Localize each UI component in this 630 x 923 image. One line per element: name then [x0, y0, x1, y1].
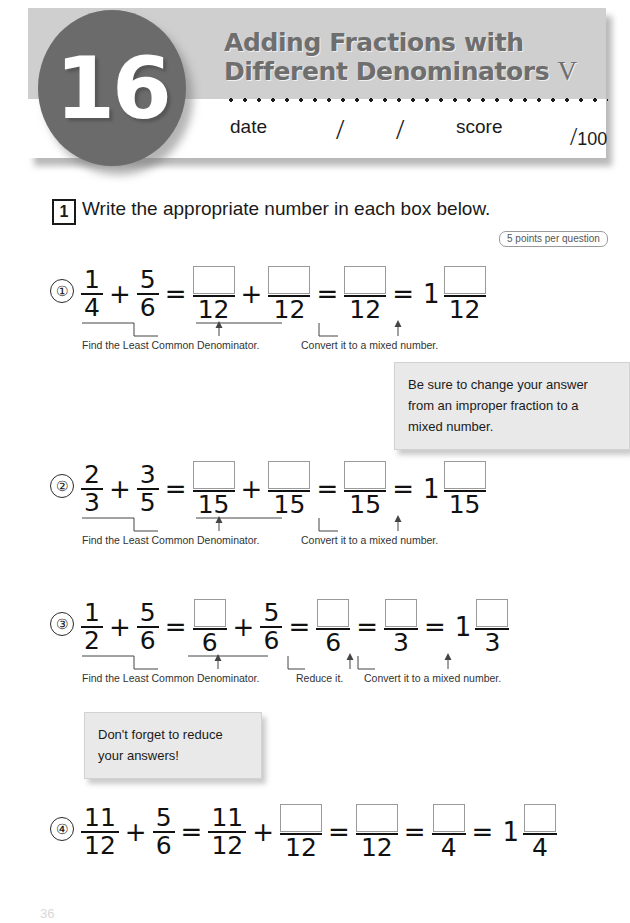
callout-improper-fraction: Be sure to change your answer from an im…: [394, 362, 630, 450]
fraction-with-answer-box: 12: [444, 266, 486, 323]
problem-number-4: ④: [50, 817, 74, 841]
denominator: 12: [195, 297, 233, 323]
fraction-with-answer-box: 3: [384, 599, 418, 656]
denominator: 15: [446, 492, 484, 518]
answer-box[interactable]: [193, 266, 235, 294]
points-per-question-badge: 5 points per question: [499, 231, 608, 247]
date-slash-1: /: [336, 112, 344, 146]
fraction-with-answer-box: 6: [193, 599, 227, 656]
problem-number-3: ③: [50, 612, 74, 636]
numerator: 1: [81, 267, 103, 293]
answer-box[interactable]: [317, 599, 349, 627]
denominator: 6: [199, 630, 221, 656]
operator: =: [165, 614, 187, 640]
callout-2-line-2: your answers!: [98, 745, 248, 766]
numerator: 11: [81, 805, 119, 831]
operator: +: [252, 819, 274, 845]
answer-box[interactable]: [268, 266, 310, 294]
title-line-2-text: Different Denominators: [224, 57, 549, 86]
whole-number: 1: [502, 817, 519, 847]
instruction-text: Write the appropriate number in each box…: [82, 198, 490, 220]
callout-1-line-2: from an improper fraction to a: [408, 395, 616, 416]
problem-expression-4: 1112+56=1112+12=12=4=14: [80, 801, 558, 863]
operator: =: [424, 614, 446, 640]
answer-box[interactable]: [344, 461, 386, 489]
fraction: 1112: [208, 805, 246, 859]
title-line-1: Adding Fractions with: [224, 28, 604, 57]
answer-box[interactable]: [356, 804, 398, 832]
denominator: 2: [81, 628, 103, 654]
fraction-with-answer-box: 4: [523, 804, 557, 861]
operator: =: [165, 281, 187, 307]
operator: =: [181, 819, 203, 845]
denominator: 6: [137, 628, 159, 654]
fraction-with-answer-box: 12: [280, 804, 322, 861]
denominator: 4: [81, 295, 103, 321]
fraction-with-answer-box: 4: [432, 804, 466, 861]
answer-box[interactable]: [444, 461, 486, 489]
fraction: 35: [137, 462, 159, 516]
operator: +: [241, 281, 263, 307]
whole-number: 1: [455, 612, 472, 642]
answer-box[interactable]: [344, 266, 386, 294]
answer-box[interactable]: [524, 804, 556, 832]
page-number: 36: [40, 906, 54, 921]
answer-box[interactable]: [444, 266, 486, 294]
numerator: 3: [137, 462, 159, 488]
fraction-with-answer-box: 12: [193, 266, 235, 323]
answer-box[interactable]: [280, 804, 322, 832]
denominator: 12: [346, 297, 384, 323]
denominator: 12: [208, 833, 246, 859]
date-slash-2: /: [396, 112, 404, 146]
numerator: 5: [153, 805, 175, 831]
fraction-with-answer-box: 12: [356, 804, 398, 861]
problem-expression-2: 23+35=15+15=15=115: [80, 458, 487, 520]
problem-expression-3: 12+56=6+56=6=3=13: [80, 596, 510, 658]
denominator: 6: [322, 630, 344, 656]
fraction-with-answer-box: 15: [444, 461, 486, 518]
fraction-with-answer-box: 15: [268, 461, 310, 518]
callout-reduce-answers: Don't forget to reduce your answers!: [84, 712, 262, 779]
annot-label-p2-lcd: Find the Least Common Denominator.: [82, 534, 259, 546]
fraction: 56: [153, 805, 175, 859]
denominator: 15: [195, 492, 233, 518]
problem-expression-1: 14+56=12+12=12=112: [80, 263, 487, 325]
annot-label-p3-lcd: Find the Least Common Denominator.: [82, 672, 259, 684]
callout-1-line-1: Be sure to change your answer: [408, 374, 616, 395]
score-total-value: 100: [577, 129, 607, 149]
annot-label-p3-mixed: Convert it to a mixed number.: [364, 672, 501, 684]
denominator: 12: [358, 835, 396, 861]
denominator: 3: [481, 630, 503, 656]
fraction: 56: [137, 600, 159, 654]
worksheet-header: Adding Fractions with Different Denomina…: [28, 8, 608, 160]
fraction-with-answer-box: 15: [193, 461, 235, 518]
operator: +: [125, 819, 147, 845]
fraction-with-answer-box: 6: [316, 599, 350, 656]
denominator: 12: [81, 833, 119, 859]
answer-box[interactable]: [268, 461, 310, 489]
lesson-number: 16: [38, 10, 186, 166]
denominator: 6: [260, 628, 282, 654]
answer-box[interactable]: [476, 599, 508, 627]
operator: =: [328, 819, 350, 845]
numerator: 5: [137, 600, 159, 626]
answer-box[interactable]: [194, 599, 226, 627]
whole-number: 1: [423, 474, 440, 504]
fraction: 1112: [81, 805, 119, 859]
answer-box[interactable]: [433, 804, 465, 832]
denominator: 6: [137, 295, 159, 321]
denominator: 5: [137, 490, 159, 516]
section-number-badge: 1: [52, 199, 76, 225]
date-label: date: [230, 116, 267, 138]
operator: +: [109, 476, 131, 502]
answer-box[interactable]: [385, 599, 417, 627]
denominator: 4: [529, 835, 551, 861]
denominator: 3: [390, 630, 412, 656]
denominator: 12: [446, 297, 484, 323]
fraction-with-answer-box: 15: [344, 461, 386, 518]
annot-label-p1-mixed: Convert it to a mixed number.: [301, 339, 438, 351]
operator: =: [392, 281, 414, 307]
operator: =: [165, 476, 187, 502]
title-roman-numeral: V: [558, 56, 577, 86]
answer-box[interactable]: [193, 461, 235, 489]
